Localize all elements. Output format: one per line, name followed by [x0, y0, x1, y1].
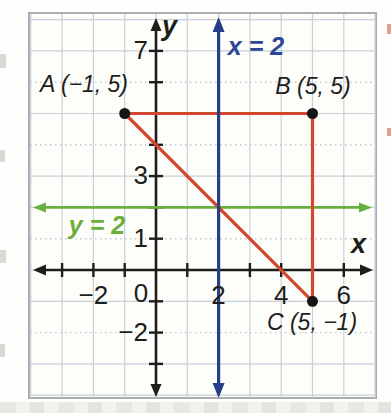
- horizontal-line-left-arrow: [33, 202, 46, 212]
- y-axis-label: y: [162, 11, 192, 41]
- y-tick-label-3: 3: [103, 161, 148, 189]
- scan-artifact-band: [0, 402, 391, 413]
- point-a-dot: [119, 108, 130, 119]
- graph-canvas: [0, 0, 391, 413]
- y-tick-label-1: 1: [103, 224, 148, 252]
- point-b-label: B (5, 5): [253, 72, 373, 100]
- scan-edge-mark: [0, 344, 5, 357]
- y-tick-label--2: −2: [103, 318, 148, 346]
- coordinate-plane-figure: y x x = 2 y = 2 A (−1, 5) B (5, 5) C (5,…: [0, 0, 391, 413]
- vertical-line-equation-label: x = 2: [201, 33, 311, 59]
- scan-edge-mark: [0, 250, 6, 263]
- point-b-dot: [307, 108, 318, 119]
- x-tick-label-4: 4: [259, 281, 303, 309]
- x-axis-label: x: [351, 229, 381, 259]
- x-tick-label--2: −2: [71, 281, 115, 309]
- horizontal-line-right-arrow: [359, 202, 372, 212]
- x-axis-right-arrow: [360, 265, 373, 276]
- point-a-label: A (−1, 5): [24, 70, 144, 98]
- point-c-dot: [307, 296, 318, 307]
- x-tick-label-6: 6: [322, 281, 366, 309]
- x-axis-left-arrow: [33, 265, 46, 276]
- scan-edge-mark: [387, 128, 391, 136]
- point-c-label: C (5, −1): [252, 308, 372, 336]
- scan-edge-mark: [0, 150, 5, 162]
- y-tick-label-7: 7: [103, 36, 148, 64]
- x-tick-label-0: 0: [119, 279, 163, 307]
- scan-edge-mark: [0, 54, 6, 68]
- x-tick-label-2: 2: [197, 281, 241, 309]
- scan-edge-mark: [387, 24, 391, 34]
